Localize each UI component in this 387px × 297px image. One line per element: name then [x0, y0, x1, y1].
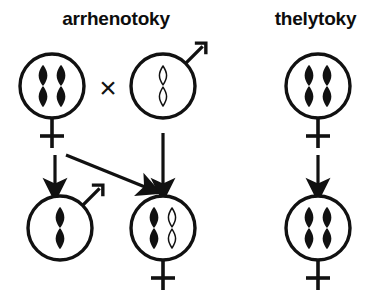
- arrow-mother-to-daughter: [66, 155, 150, 189]
- mars-shaft: [185, 46, 203, 64]
- cell-arrhenotoky-daughter: [131, 196, 195, 290]
- cell-membrane-thelytoky-daughter: [286, 196, 350, 260]
- cell-arrhenotoky-mother: [20, 54, 84, 148]
- figure-canvas: arrhenotoky thelytoky ×: [0, 0, 387, 297]
- reproduction-mode-diagram: ×: [0, 0, 387, 297]
- mars-shaft: [82, 188, 100, 206]
- arrow-layer: [55, 133, 318, 190]
- cell-membrane-thelytoky-mother: [286, 54, 350, 118]
- cell-membrane-arrhenotoky-daughter: [131, 196, 195, 260]
- cell-membrane-arrhenotoky-son: [28, 196, 92, 260]
- cell-membrane-arrhenotoky-father: [131, 54, 195, 118]
- cell-arrhenotoky-son: [28, 185, 103, 260]
- cell-layer: [20, 43, 350, 290]
- cell-thelytoky-mother: [286, 54, 350, 148]
- cell-thelytoky-daughter: [286, 196, 350, 290]
- operator-layer: ×: [99, 71, 117, 104]
- arrow-mother-to-daughter-shaft: [66, 155, 150, 189]
- cell-membrane-arrhenotoky-mother: [20, 54, 84, 118]
- cell-arrhenotoky-father: [131, 43, 206, 118]
- cross-symbol: ×: [99, 71, 117, 104]
